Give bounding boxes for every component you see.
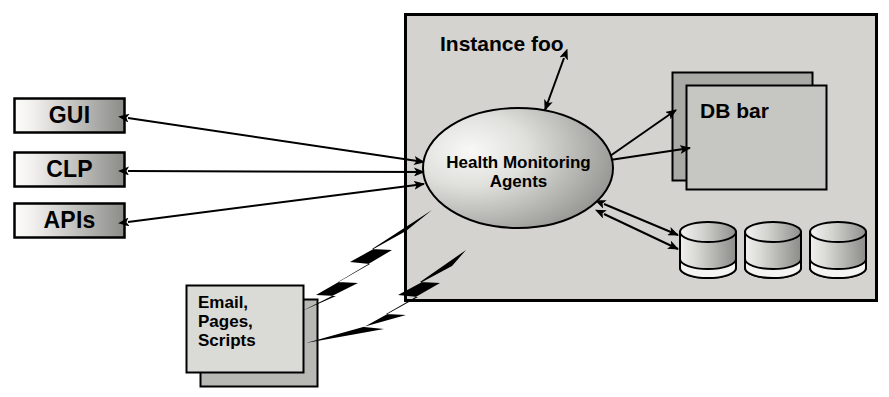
connector-apis-agents — [128, 184, 424, 222]
box-apis[interactable] — [15, 204, 125, 238]
box-clp[interactable] — [15, 153, 125, 187]
db-bar-front-rect — [687, 86, 827, 190]
connector-gui-agents — [128, 118, 424, 162]
box-gui[interactable] — [15, 99, 125, 133]
connector-clp-agents — [128, 171, 424, 172]
email-box-front-rect — [187, 286, 304, 373]
db-bar-node[interactable] — [673, 73, 827, 190]
diagram-canvas: GUI CLP APIs Instance foo DB bar Health … — [0, 0, 889, 397]
email-box-node[interactable] — [187, 286, 318, 387]
cylinder-3[interactable] — [810, 222, 866, 278]
health-monitoring-agents-ellipse[interactable] — [423, 108, 613, 228]
cylinder-1[interactable] — [680, 222, 736, 278]
diagram-vector-layer — [0, 0, 889, 397]
cylinder-2[interactable] — [745, 222, 801, 278]
